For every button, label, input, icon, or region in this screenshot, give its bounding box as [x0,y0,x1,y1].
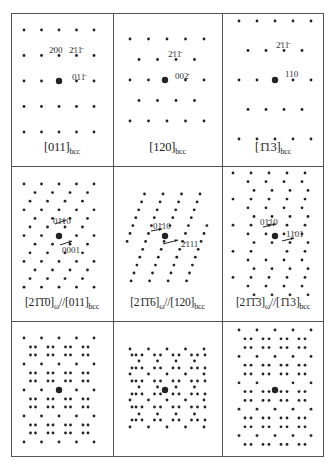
diffraction-spot [256,20,259,23]
diffraction-spot [135,393,138,396]
diffraction-spot [40,234,43,237]
diffraction-spot [64,432,67,435]
diffraction-spot [298,443,301,446]
diffraction-spot [265,108,268,111]
diffraction-spot [271,189,274,192]
diffraction-spot [232,198,235,201]
diffraction-spot [180,193,183,196]
diffraction-spot [307,241,310,244]
diffraction-spot [166,120,169,123]
diffraction-spot [232,250,235,253]
diffraction-spot [69,424,72,427]
diffraction-spot [292,79,295,82]
diffraction-spot [23,131,26,134]
diffraction-spot [138,256,141,259]
diffraction-spot [58,131,61,134]
diffraction-spot [23,80,26,83]
diffraction-spot [262,443,265,446]
diffraction-spot [238,355,241,358]
diffraction-spot [46,277,49,280]
diffraction-spot [93,415,96,418]
caption-bcc-axis: //[011] [59,296,88,308]
diffraction-spot [40,415,43,418]
diffraction-spot [173,264,176,267]
diffraction-spot [172,380,175,383]
diffraction-spot [190,406,193,409]
diffraction-spot [40,260,43,263]
caption-omega-axis: [21̄1̄6] [130,296,159,308]
miller-index-label: 110 [285,69,299,79]
diffraction-spot [40,29,43,32]
arrow-group [55,220,294,245]
diffraction-spot [58,105,61,108]
diffraction-spot [51,243,54,246]
diffraction-spot [75,363,78,366]
diffraction-spot [310,434,313,437]
diffraction-spot [40,105,43,108]
diffraction-spot [52,372,55,375]
diffraction-spot [301,259,304,262]
caption-subscript: bcc [175,147,186,156]
diffraction-spot [159,393,162,396]
diffraction-spot [75,286,78,289]
diffraction-spot [298,337,301,340]
diffraction-spot [289,267,292,270]
diffraction-spot [178,354,181,357]
diffraction-spot [64,277,67,280]
diffraction-spot [204,380,207,383]
diffraction-spot [147,79,150,82]
diffraction-spot [280,399,283,402]
diffraction-spot [23,234,26,237]
diffraction-spot [250,198,253,201]
diffraction-spot [47,372,50,375]
diffraction-spot [138,58,141,61]
caption-omega-axis: [21̄1̄0] [25,296,54,308]
diffraction-spot [64,380,67,383]
diffraction-spot [40,363,43,366]
diffraction-spot [203,120,206,123]
diffraction-spot [187,224,190,227]
diffraction-spot [141,393,144,396]
diffraction-spot [268,346,271,349]
diffraction-spot [29,380,32,383]
diffraction-spot [190,216,193,219]
diffraction-spot [147,232,150,235]
miller-index-label: 0001 [62,245,80,255]
diffraction-spot [34,217,37,220]
diffraction-spot [64,372,67,375]
transmitted-beam-spot [56,387,62,393]
caption-subscript: bcc [300,302,311,311]
miller-index-label: 2̄11̄ [69,45,84,55]
diffraction-spot [194,256,197,259]
diffraction-spot [253,267,256,270]
diffraction-spot [129,232,132,235]
diffraction-spot [23,208,26,211]
diffraction-spot [75,105,78,108]
diffraction-spot [304,198,307,201]
diffraction-spot [244,399,247,402]
diffraction-spot [292,329,295,332]
diffraction-spot [82,372,85,375]
diffraction-spot [286,443,289,446]
diffraction-spot [286,417,289,420]
diffraction-spot [23,286,26,289]
diffraction-spot [40,131,43,134]
diffraction-spot [136,264,139,267]
diffraction-spot [289,189,292,192]
diffraction-spot [203,426,206,429]
diffraction-spot [69,191,72,194]
miller-index-label: 01̄10 [53,216,71,226]
diffraction-spot [244,390,247,393]
transmitted-beam-spot [272,233,278,239]
diffraction-spot [81,200,84,203]
diffraction-spot [204,406,207,409]
diffraction-spot [250,443,253,446]
diffraction-spot [304,425,307,428]
diffraction-spot [244,337,247,340]
diffraction-spot [93,105,96,108]
diffraction-spot [196,393,199,396]
diffraction-spot [283,285,286,288]
diffraction-spot [172,367,175,370]
diffraction-spot [82,398,85,401]
diffraction-spot [166,399,169,402]
